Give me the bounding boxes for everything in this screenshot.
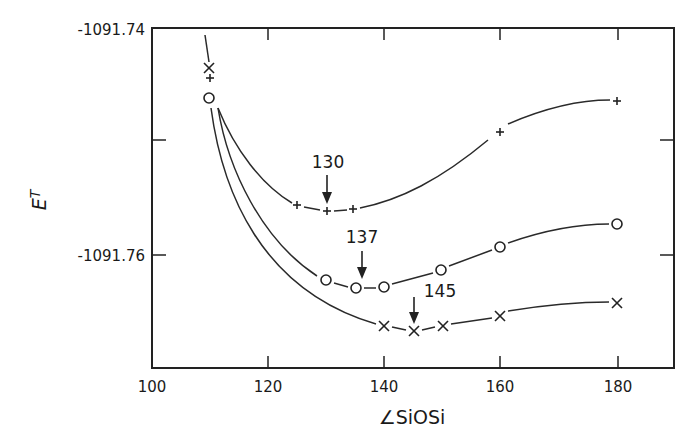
y-tick-label: -1091.74 [78, 21, 145, 39]
x-axis-title: ∠SiOSi [379, 406, 446, 428]
cross-marker [495, 311, 505, 321]
cross-marker [379, 321, 389, 331]
x-tick-label: 100 [138, 378, 167, 396]
x-tick-label: 180 [604, 378, 633, 396]
circle-series-curve [334, 283, 348, 287]
cross-series-curve [205, 35, 209, 62]
annotation-145: 145 [409, 281, 456, 324]
x-tick-labels: 100 120 140 160 180 [138, 378, 633, 396]
plus-series-curve [304, 207, 320, 210]
curves [205, 35, 610, 330]
plus-marker [323, 207, 331, 215]
plus-series-markers [206, 74, 621, 215]
plus-series-curve [360, 140, 488, 208]
cross-series-curve [451, 318, 492, 324]
circle-marker [321, 275, 331, 285]
annotation-137: 137 [346, 227, 378, 279]
x-tick-label: 160 [486, 378, 515, 396]
y-tick-label: -1091.76 [78, 247, 145, 265]
plus-series-curve [334, 210, 347, 211]
energy-vs-angle-chart: 100 120 140 160 180 -1091.74 -1091.76 ∠S… [0, 0, 691, 436]
svg-text:130: 130 [312, 152, 344, 172]
cross-marker [409, 326, 419, 336]
circle-marker [612, 219, 622, 229]
plus-marker [496, 128, 504, 136]
cross-series-curve [422, 327, 435, 330]
circle-marker [351, 283, 361, 293]
circle-series-curve [449, 250, 492, 266]
plus-marker [206, 74, 214, 82]
x-axis-ticks [268, 28, 618, 368]
cross-marker [612, 298, 622, 308]
svg-text:ET: ET [27, 188, 50, 210]
circle-marker [436, 265, 446, 275]
x-tick-label: 120 [254, 378, 283, 396]
cross-series-markers [204, 63, 622, 336]
circle-series-curve [508, 224, 609, 243]
plus-series-curve [508, 100, 610, 124]
circle-marker [379, 282, 389, 292]
cross-marker [204, 63, 214, 73]
y-tick-labels: -1091.74 -1091.76 [78, 21, 145, 265]
plus-marker [613, 97, 621, 105]
cross-series-curve [508, 302, 609, 311]
x-tick-label: 140 [370, 378, 399, 396]
svg-text:137: 137 [346, 227, 378, 247]
cross-series-curve [392, 327, 406, 330]
circle-series-markers [204, 93, 622, 293]
cross-marker [438, 321, 448, 331]
y-axis-title: ET [27, 188, 50, 210]
circle-marker [495, 242, 505, 252]
plus-marker [349, 205, 357, 213]
annotation-130: 130 [312, 152, 344, 204]
cross-series-curve [211, 108, 376, 324]
plus-marker [293, 201, 301, 209]
svg-text:145: 145 [424, 281, 456, 301]
circle-marker [204, 93, 214, 103]
